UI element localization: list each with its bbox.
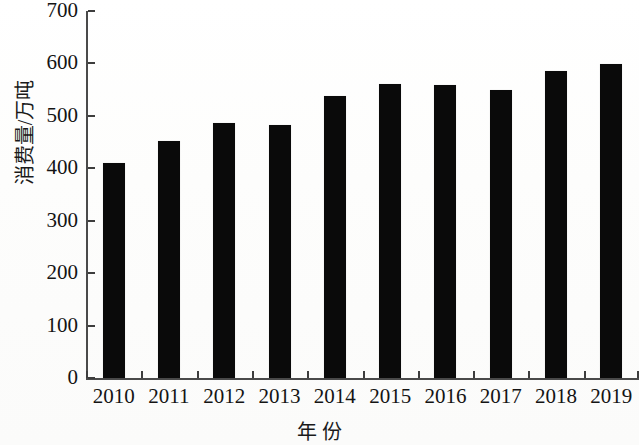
x-axis-title: 年 份 xyxy=(0,416,639,445)
x-axis-tick-labels: 2010201120122013201420152016201720182019 xyxy=(86,386,639,416)
x-tick-label: 2017 xyxy=(471,386,531,407)
y-tick-mark xyxy=(88,272,95,274)
y-tick-label: 300 xyxy=(24,210,78,231)
x-tick-mark xyxy=(86,371,88,378)
bar-chart: 消费量/万吨 0100200300400500600700 2010201120… xyxy=(0,0,639,445)
x-tick-mark xyxy=(473,371,475,378)
x-tick-label: 2018 xyxy=(526,386,586,407)
y-tick-mark xyxy=(88,115,95,117)
y-axis-tick-labels: 0100200300400500600700 xyxy=(16,0,78,400)
x-tick-mark xyxy=(584,371,586,378)
y-tick-label: 600 xyxy=(24,52,78,73)
bar xyxy=(379,84,401,378)
x-tick-mark xyxy=(418,371,420,378)
bar xyxy=(103,163,125,378)
bar xyxy=(324,96,346,378)
y-tick-label: 500 xyxy=(24,105,78,126)
y-tick-label: 400 xyxy=(24,157,78,178)
y-tick-label: 200 xyxy=(24,262,78,283)
y-tick-mark xyxy=(88,377,95,379)
bar xyxy=(158,141,180,379)
y-tick-mark xyxy=(88,220,95,222)
bar xyxy=(213,123,235,378)
bar xyxy=(545,71,567,378)
bar xyxy=(434,85,456,378)
bar xyxy=(600,64,622,378)
y-tick-mark xyxy=(88,10,95,12)
plot-area xyxy=(86,11,639,380)
x-tick-label: 2019 xyxy=(581,386,639,407)
bar xyxy=(490,90,512,378)
y-tick-label: 100 xyxy=(24,315,78,336)
x-axis-line xyxy=(86,378,639,380)
x-tick-mark xyxy=(197,371,199,378)
x-tick-label: 2016 xyxy=(415,386,475,407)
x-tick-mark xyxy=(363,371,365,378)
y-tick-mark xyxy=(88,62,95,64)
x-tick-mark xyxy=(252,371,254,378)
x-tick-mark xyxy=(307,371,309,378)
x-tick-mark xyxy=(528,371,530,378)
x-tick-label: 2015 xyxy=(360,386,420,407)
bar xyxy=(269,125,291,378)
x-tick-label: 2010 xyxy=(84,386,144,407)
x-tick-mark xyxy=(141,371,143,378)
y-tick-label: 0 xyxy=(24,367,78,388)
x-tick-label: 2012 xyxy=(194,386,254,407)
x-tick-label: 2011 xyxy=(139,386,199,407)
y-tick-label: 700 xyxy=(24,0,78,21)
y-tick-mark xyxy=(88,167,95,169)
x-tick-label: 2014 xyxy=(305,386,365,407)
y-tick-mark xyxy=(88,325,95,327)
x-tick-label: 2013 xyxy=(250,386,310,407)
